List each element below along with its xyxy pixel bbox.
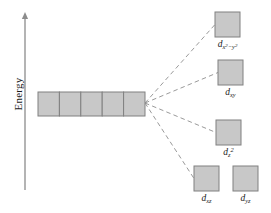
correlation-line-dxz bbox=[145, 103, 194, 179]
orbital-box-dx2-y2 bbox=[215, 12, 240, 37]
energy-axis-label: Energy bbox=[12, 62, 24, 126]
orbital-label-dxy: dxy bbox=[225, 88, 235, 98]
degenerate-orbital-box bbox=[59, 92, 80, 116]
correlation-lines bbox=[145, 25, 218, 179]
orbital-box-dxy bbox=[218, 60, 243, 85]
correlation-line-dxy bbox=[145, 73, 218, 104]
split-orbital-boxes bbox=[194, 12, 258, 191]
crystal-field-splitting-diagram: Energy dx2−y2dxydz2dxzdyz bbox=[0, 0, 271, 213]
diagram-canvas bbox=[0, 0, 271, 213]
orbital-box-dyz bbox=[233, 166, 258, 191]
degenerate-orbital-box bbox=[102, 92, 123, 116]
degenerate-orbital-box bbox=[38, 92, 59, 116]
energy-axis-arrowhead bbox=[22, 12, 28, 19]
orbital-label-dx2-y2: dx2−y2 bbox=[218, 40, 238, 50]
degenerate-orbital-boxes bbox=[38, 92, 145, 116]
orbital-label-dxz: dxz bbox=[201, 194, 211, 204]
orbital-box-dz2 bbox=[216, 120, 241, 145]
degenerate-orbital-box bbox=[124, 92, 145, 116]
correlation-line-dz2 bbox=[145, 103, 216, 133]
orbital-label-dz2: dz2 bbox=[223, 148, 233, 158]
degenerate-orbital-box bbox=[81, 92, 102, 116]
orbital-box-dxz bbox=[194, 166, 219, 191]
orbital-label-dyz: dyz bbox=[240, 194, 250, 204]
correlation-line-dx2-y2 bbox=[145, 25, 215, 104]
